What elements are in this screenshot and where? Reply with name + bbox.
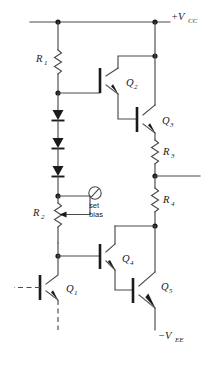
transistor-q3-label: Q bbox=[162, 115, 170, 126]
transistor-q4-label: Q bbox=[122, 253, 130, 264]
vcc-label-subscript: CC bbox=[188, 17, 198, 25]
resistor-r4-label: R bbox=[162, 194, 170, 205]
resistor-r1-subscript: 1 bbox=[44, 59, 48, 67]
resistor-r3 bbox=[152, 140, 159, 176]
transistor-q3-subscript: 3 bbox=[169, 121, 174, 129]
transistor-q1-subscript: 1 bbox=[74, 289, 78, 297]
schematic-canvas: R 1 bbox=[0, 0, 214, 365]
set-bias-adjuster-icon[interactable] bbox=[89, 187, 101, 199]
resistor-r4-subscript: 4 bbox=[171, 200, 175, 208]
wiper-arrow-icon bbox=[60, 212, 67, 218]
transistor-q1 bbox=[14, 256, 58, 330]
transistor-q5-subscript: 5 bbox=[169, 287, 173, 295]
resistor-r2-potentiometer bbox=[55, 196, 91, 243]
resistor-r1-label: R bbox=[35, 53, 43, 64]
resistor-r1 bbox=[55, 22, 62, 93]
vcc-label-text: +V bbox=[171, 11, 186, 22]
vee-rail-label: −V EE bbox=[158, 330, 184, 344]
resistor-r4 bbox=[152, 176, 159, 226]
resistor-r3-label: R bbox=[162, 146, 170, 157]
transistor-q4-subscript: 4 bbox=[130, 259, 134, 267]
transistor-q2-subscript: 2 bbox=[134, 83, 138, 91]
diode-1 bbox=[52, 110, 65, 138]
diode-3 bbox=[52, 166, 65, 196]
transistor-q5 bbox=[133, 272, 155, 330]
transistor-q3 bbox=[137, 105, 155, 140]
vee-label-text: −V bbox=[158, 330, 173, 341]
diode-string bbox=[52, 93, 65, 196]
resistor-r2-label: R bbox=[32, 207, 40, 218]
resistor-r3-subscript: 3 bbox=[170, 152, 175, 160]
vcc-rail-label: +V CC bbox=[171, 11, 198, 25]
transistor-q1-label: Q bbox=[66, 283, 74, 294]
vee-label-subscript: EE bbox=[174, 336, 184, 344]
transistor-q2-label: Q bbox=[126, 77, 134, 88]
transistor-q5-label: Q bbox=[161, 281, 169, 292]
resistor-r2-subscript: 2 bbox=[41, 213, 45, 221]
circuit-diagram: R 1 bbox=[0, 0, 214, 365]
set-bias-label-line2: bias bbox=[89, 210, 103, 219]
diode-2 bbox=[52, 138, 65, 166]
set-bias-label-line1: set bbox=[89, 201, 100, 210]
